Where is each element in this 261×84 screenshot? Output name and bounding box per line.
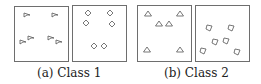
diamond-shape-icon — [85, 10, 91, 16]
rotated-diamond-shape-icon — [234, 49, 240, 55]
diamond-shape-icon — [91, 43, 97, 49]
diamond-shape-icon — [107, 10, 113, 16]
caption-class-1: (a) Class 1 — [37, 66, 101, 80]
flag-shape-icon — [20, 40, 26, 44]
triangle-shape-icon — [177, 11, 184, 16]
diamond-shape-icon — [109, 21, 115, 27]
triangle-shape-icon — [156, 21, 163, 26]
rotated-diamond-shape-icon — [223, 38, 229, 44]
triangle-shape-icon — [166, 21, 173, 26]
rotated-diamond-shape-icon — [200, 48, 206, 54]
triangle-shape-icon — [177, 47, 184, 52]
rotated-diamond-shape-icon — [212, 39, 218, 45]
rotated-diamond-shape-icon — [228, 25, 234, 31]
triangle-shape-icon — [144, 47, 151, 52]
caption-class-2: (b) Class 2 — [164, 66, 229, 80]
triangle-shape-icon — [145, 11, 152, 16]
flag-shape-icon — [28, 36, 34, 40]
diamond-shape-icon — [101, 43, 107, 49]
flag-shape-icon — [24, 13, 30, 17]
flag-shape-icon — [48, 36, 54, 40]
flag-shape-icon — [56, 40, 62, 44]
diamond-shape-icon — [83, 20, 89, 26]
flag-shape-icon — [52, 13, 58, 17]
rotated-diamond-shape-icon — [206, 25, 212, 31]
